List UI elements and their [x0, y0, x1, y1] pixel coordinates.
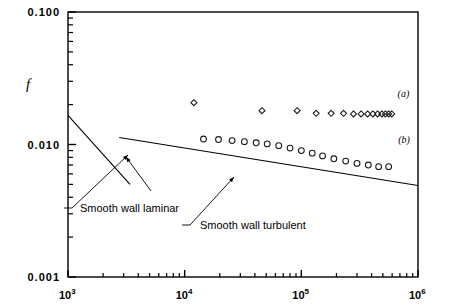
data-point-circle	[320, 153, 326, 159]
data-series-group	[191, 100, 395, 170]
data-point-diamond	[313, 110, 319, 116]
data-point-circle	[343, 158, 349, 164]
data-series-a	[191, 100, 395, 117]
data-point-circle	[331, 156, 337, 162]
annotation-leaders-group	[64, 155, 234, 225]
data-point-circle	[309, 150, 315, 156]
x-tick-exponent: 6	[421, 287, 426, 296]
x-tick-label: 105	[292, 287, 309, 301]
data-point-diamond	[341, 110, 347, 116]
annotation-arrowhead	[126, 157, 131, 162]
data-point-circle	[354, 161, 360, 167]
data-point-circle	[229, 138, 235, 144]
annotation-leader	[126, 157, 151, 191]
y-tick-label: 0.010	[27, 139, 60, 151]
data-point-circle	[241, 139, 247, 145]
data-point-circle	[276, 143, 282, 149]
data-point-circle	[264, 141, 270, 147]
data-point-diamond	[294, 108, 300, 114]
data-point-circle	[298, 148, 304, 154]
annotation-leader	[72, 155, 128, 208]
x-tick-exponent: 4	[188, 287, 193, 296]
x-tick-label: 106	[409, 287, 426, 301]
data-point-diamond	[191, 100, 197, 106]
x-tick-label: 104	[176, 287, 193, 301]
data-point-diamond	[259, 108, 265, 114]
data-point-circle	[365, 162, 371, 168]
data-point-circle	[201, 136, 207, 142]
data-point-diamond	[351, 111, 357, 117]
reference-lines-group	[68, 115, 418, 185]
y-tick-label: 0.100	[27, 6, 60, 18]
y-tick-label: 0.001	[27, 271, 60, 283]
x-tick-exponent: 3	[71, 287, 76, 296]
data-point-circle	[253, 140, 259, 146]
annotation-text: Smooth wall turbulent	[200, 219, 306, 231]
data-series-b	[201, 136, 392, 169]
friction-factor-chart: f0.1000.0100.001103104105106(a)(b)Smooth…	[0, 0, 456, 306]
data-point-circle	[376, 164, 382, 170]
y-axis-label: f	[26, 76, 32, 92]
series-label-a: (a)	[398, 88, 410, 100]
data-point-diamond	[328, 110, 334, 116]
series-label-b: (b)	[398, 134, 410, 146]
chart-canvas: f0.1000.0100.001103104105106(a)(b)Smooth…	[0, 0, 456, 306]
x-tick-exponent: 5	[305, 287, 310, 296]
chart-text-layer: f0.1000.0100.001103104105106(a)(b)Smooth…	[26, 6, 426, 301]
annotation-leader	[190, 177, 234, 225]
reference-line-smooth-wall-laminar	[68, 115, 130, 184]
data-point-diamond	[358, 111, 364, 117]
x-tick-label: 103	[59, 287, 76, 301]
data-point-circle	[216, 137, 222, 143]
annotation-text: Smooth wall laminar	[80, 202, 179, 214]
data-point-circle	[386, 164, 392, 170]
data-point-circle	[287, 145, 293, 151]
reference-line-smooth-wall-turbulent	[119, 137, 418, 185]
